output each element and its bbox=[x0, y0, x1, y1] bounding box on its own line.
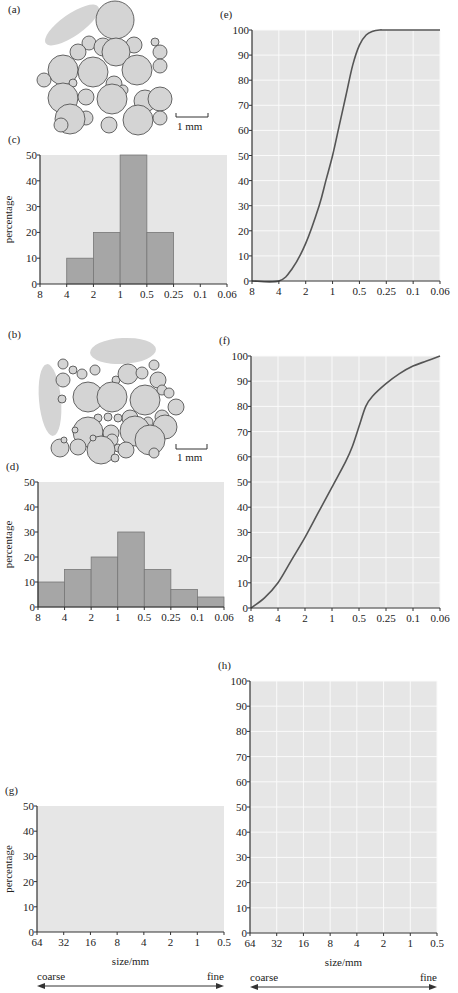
x-tick-label: 0.1 bbox=[406, 612, 420, 624]
grain bbox=[164, 388, 174, 398]
panel-label-c: (c) bbox=[8, 133, 21, 146]
chart-h: (h)010203040506070809010064321684210.5si… bbox=[218, 659, 444, 990]
grain bbox=[123, 105, 153, 135]
chart-e: (e)010203040506070809010084210.50.250.10… bbox=[220, 8, 450, 297]
grain bbox=[114, 414, 122, 422]
x-tick-label: 0.5 bbox=[217, 936, 231, 948]
bar-0.1-0.06 bbox=[197, 597, 224, 607]
grain bbox=[58, 359, 68, 369]
x-tick-label: 2 bbox=[91, 288, 97, 300]
grain bbox=[72, 427, 78, 433]
panel-label-b: (b) bbox=[8, 328, 21, 341]
y-tick-label: 40 bbox=[26, 175, 38, 187]
grain bbox=[69, 366, 77, 374]
x-tick-label: 1 bbox=[117, 288, 123, 300]
y-tick-label: 70 bbox=[237, 426, 249, 438]
x-tick-label: 0.5 bbox=[353, 285, 367, 297]
x-tick-label: 2 bbox=[168, 936, 174, 948]
y-tick-label: 60 bbox=[238, 124, 250, 136]
x-tick-label: 4 bbox=[141, 936, 147, 948]
bar-1-0.5 bbox=[118, 532, 145, 607]
x-tick-label: 0.1 bbox=[193, 288, 207, 300]
chart-c: (c)0102030405084210.50.250.10.06percenta… bbox=[2, 133, 237, 300]
chart-d: (d)0102030405084210.50.250.10.06percenta… bbox=[2, 460, 234, 623]
grain bbox=[101, 117, 117, 133]
grain bbox=[97, 382, 127, 412]
x-tick-label: 0.5 bbox=[137, 611, 151, 623]
panel-label-g: (g) bbox=[5, 784, 18, 797]
x-tick-label: 16 bbox=[298, 937, 310, 949]
grain bbox=[153, 59, 167, 73]
charts: (c)0102030405084210.50.250.10.06percenta… bbox=[2, 8, 450, 990]
grain bbox=[37, 73, 51, 87]
x-tick-label: 2 bbox=[302, 612, 308, 624]
y-tick-label: 40 bbox=[237, 501, 249, 513]
grain bbox=[78, 57, 108, 87]
x-tick-label: 16 bbox=[85, 936, 97, 948]
bar-8-4 bbox=[38, 582, 65, 607]
y-tick-label: 20 bbox=[238, 225, 250, 237]
y-tick-label: 40 bbox=[238, 175, 250, 187]
y-tick-label: 80 bbox=[237, 400, 249, 412]
chart-f: (f)010203040506070809010084210.50.250.10… bbox=[219, 334, 450, 624]
x-tick-label: 0.06 bbox=[430, 285, 450, 297]
grain bbox=[78, 89, 94, 105]
grain bbox=[61, 437, 67, 443]
y-tick-label: 70 bbox=[236, 751, 248, 763]
x-tick-label: 0.25 bbox=[376, 612, 396, 624]
annotation-fine: fine bbox=[420, 971, 437, 983]
x-tick-label: 0.5 bbox=[352, 612, 366, 624]
grain bbox=[58, 395, 66, 403]
x-tick-label: 0.1 bbox=[406, 285, 420, 297]
arrow-head-left-icon bbox=[250, 984, 258, 990]
x-tick-label: 8 bbox=[248, 612, 254, 624]
panel-label-h: (h) bbox=[218, 659, 231, 672]
y-tick-label: 50 bbox=[24, 476, 36, 488]
x-tick-label: 8 bbox=[249, 285, 255, 297]
y-tick-label: 20 bbox=[23, 876, 35, 888]
x-tick-label: 1 bbox=[408, 937, 414, 949]
y-tick-label: 60 bbox=[237, 451, 249, 463]
scale-label-a: 1 mm bbox=[177, 120, 203, 132]
y-tick-label: 10 bbox=[238, 250, 250, 262]
y-tick-label: 100 bbox=[232, 350, 249, 362]
x-tick-label: 2 bbox=[88, 611, 94, 623]
annotation-coarse: coarse bbox=[37, 970, 65, 982]
y-axis-label: percentage bbox=[2, 845, 14, 893]
bar-0.5-0.25 bbox=[144, 570, 171, 608]
x-tick-label: 2 bbox=[381, 937, 387, 949]
y-tick-label: 20 bbox=[236, 877, 248, 889]
grain-packing-a bbox=[37, 0, 172, 135]
x-tick-label: 32 bbox=[271, 937, 282, 949]
arrow-head-left-icon bbox=[37, 983, 45, 989]
bar-0.25-0.1 bbox=[171, 590, 198, 608]
y-tick-label: 30 bbox=[26, 201, 38, 213]
scale-bar-a: 1 mm bbox=[176, 113, 208, 132]
x-tick-label: 0.1 bbox=[191, 611, 205, 623]
x-tick-label: 0.06 bbox=[217, 288, 237, 300]
panel-label-e: (e) bbox=[220, 8, 233, 21]
y-tick-label: 20 bbox=[26, 226, 38, 238]
y-tick-label: 30 bbox=[237, 526, 249, 538]
grain bbox=[136, 367, 148, 379]
grain bbox=[111, 454, 119, 462]
x-tick-label: 32 bbox=[58, 936, 69, 948]
grain bbox=[148, 87, 172, 111]
y-tick-label: 50 bbox=[236, 801, 248, 813]
grain bbox=[122, 55, 152, 85]
y-tick-label: 60 bbox=[236, 776, 248, 788]
grain bbox=[70, 439, 86, 455]
y-tick-label: 50 bbox=[237, 476, 249, 488]
y-tick-label: 80 bbox=[236, 725, 248, 737]
grain bbox=[96, 1, 134, 39]
x-tick-label: 8 bbox=[327, 937, 333, 949]
x-axis-label: size/mm bbox=[112, 955, 150, 967]
x-tick-label: 4 bbox=[275, 612, 281, 624]
bar-2-1 bbox=[93, 232, 120, 284]
y-tick-label: 10 bbox=[237, 577, 249, 589]
x-tick-label: 1 bbox=[330, 285, 336, 297]
x-tick-label: 64 bbox=[245, 937, 257, 949]
grain bbox=[90, 365, 100, 375]
grain bbox=[70, 44, 86, 60]
grain bbox=[56, 373, 70, 387]
